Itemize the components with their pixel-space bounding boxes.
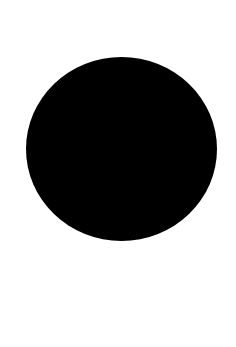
black-circle-shape xyxy=(26,57,217,241)
canvas xyxy=(0,0,236,347)
